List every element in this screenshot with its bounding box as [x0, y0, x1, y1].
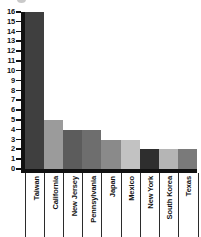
x-axis-label-slot: South Korea	[159, 173, 179, 237]
x-axis-label: New Jersey	[69, 176, 78, 216]
x-axis-label: Taiwan	[31, 176, 40, 200]
y-axis-tick: 5	[0, 115, 21, 124]
x-axis-label: Japan	[107, 176, 116, 197]
y-axis-tick: 8	[0, 86, 21, 95]
x-axis-label: Mexico	[127, 176, 136, 201]
bar-slot	[63, 12, 82, 169]
bar-slot	[140, 12, 159, 169]
y-axis-tick-mark	[16, 158, 21, 160]
y-axis-tick-mark	[16, 80, 21, 82]
y-axis-tick-label: 13	[7, 36, 15, 45]
bar-series	[25, 12, 197, 169]
y-axis-tick-mark	[16, 119, 21, 121]
y-axis-tick: 13	[0, 36, 21, 45]
x-axis-label: South Korea	[165, 176, 174, 220]
x-axis-label: Texas	[184, 176, 193, 196]
y-axis-tick: 4	[0, 125, 21, 134]
bar[interactable]	[178, 149, 197, 169]
y-axis-tick-label: 4	[11, 125, 15, 134]
y-axis-tick: 7	[0, 95, 21, 104]
bar[interactable]	[82, 130, 101, 169]
bar-slot	[101, 12, 120, 169]
y-axis-tick-mark	[16, 21, 21, 23]
y-axis-tick-label: 3	[11, 135, 15, 144]
y-axis-tick: 16	[0, 7, 21, 16]
y-axis-tick-label: 9	[11, 76, 15, 85]
x-axis-label-slot: New York	[140, 173, 160, 237]
y-axis-tick: 12	[0, 46, 21, 55]
bar[interactable]	[159, 149, 178, 169]
y-axis-tick: 0	[0, 164, 21, 173]
y-axis-tick-mark	[16, 90, 21, 92]
y-axis-tick-mark	[16, 70, 21, 72]
y-axis-tick: 11	[0, 56, 21, 65]
x-axis-label-slot: Texas	[178, 173, 199, 237]
x-axis-label-slot: California	[44, 173, 64, 237]
bar-slot	[82, 12, 101, 169]
y-axis-tick-label: 14	[7, 27, 15, 36]
y-axis-tick-mark	[16, 50, 21, 52]
y-axis-tick-label: 12	[7, 46, 15, 55]
x-axis-label-slot: Japan	[101, 173, 121, 237]
page-artifact-mark	[17, 0, 26, 3]
x-axis-label-slot: New Jersey	[63, 173, 83, 237]
bar[interactable]	[63, 130, 82, 169]
bar-chart: 012345678910111213141516 TaiwanCaliforni…	[0, 0, 201, 237]
bar[interactable]	[25, 12, 44, 169]
x-axis-labels: TaiwanCaliforniaNew JerseyPennsylvaniaJa…	[25, 173, 197, 237]
y-axis-tick-mark	[16, 11, 21, 13]
y-axis-tick-mark	[16, 99, 21, 101]
x-axis-label-slot: Pennsylvania	[82, 173, 102, 237]
bar[interactable]	[140, 149, 159, 169]
y-axis-tick-mark	[16, 148, 21, 150]
y-axis-tick-label: 0	[11, 164, 15, 173]
x-axis-label-slot: Mexico	[121, 173, 141, 237]
y-axis-tick-label: 6	[11, 105, 15, 114]
y-axis-tick-label: 7	[11, 95, 15, 104]
y-axis-tick-label: 10	[7, 66, 15, 75]
y-axis-tick: 1	[0, 154, 21, 163]
bar-slot	[44, 12, 63, 169]
x-axis-label: California	[50, 176, 59, 210]
y-axis-tick-mark	[16, 40, 21, 42]
y-axis-tick-label: 15	[7, 17, 15, 26]
bar[interactable]	[121, 140, 140, 169]
y-axis-tick-label: 16	[7, 7, 15, 16]
y-axis-tick-label: 2	[11, 144, 15, 153]
y-axis-tick-mark	[16, 129, 21, 131]
y-axis-tick-mark	[16, 139, 21, 141]
y-axis-tick-mark	[16, 60, 21, 62]
y-axis-tick: 3	[0, 135, 21, 144]
y-axis-tick-label: 5	[11, 115, 15, 124]
y-axis-tick-mark	[16, 168, 21, 170]
bar-slot	[121, 12, 140, 169]
bar-slot	[25, 12, 44, 169]
y-axis-tick: 10	[0, 66, 21, 75]
bar-slot	[178, 12, 197, 169]
y-axis-tick-label: 8	[11, 86, 15, 95]
y-axis-tick-mark	[16, 109, 21, 111]
y-axis-tick-mark	[16, 31, 21, 33]
y-axis-tick: 15	[0, 17, 21, 26]
y-axis-tick: 14	[0, 27, 21, 36]
y-axis-tick: 9	[0, 76, 21, 85]
bar[interactable]	[44, 120, 63, 169]
x-axis-label: Pennsylvania	[88, 176, 97, 223]
bar[interactable]	[101, 140, 120, 169]
y-axis-tick-label: 1	[11, 154, 15, 163]
bar-slot	[159, 12, 178, 169]
y-axis-tick: 2	[0, 144, 21, 153]
y-axis-tick: 6	[0, 105, 21, 114]
x-axis-label-slot: Taiwan	[25, 173, 45, 237]
y-axis-tick-label: 11	[7, 56, 15, 65]
x-axis-label: New York	[146, 176, 155, 209]
